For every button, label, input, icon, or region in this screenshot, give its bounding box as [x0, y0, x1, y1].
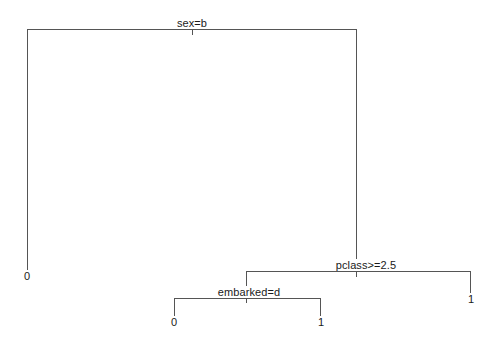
leaf-label-embarked-right: 1	[318, 316, 324, 328]
split-label-pclass: pclass>=2.5	[333, 259, 399, 271]
leaf-label-root-left: 0	[24, 270, 30, 282]
leaf-label-embarked-left: 0	[171, 316, 177, 328]
split-label-sex: sex=b	[174, 17, 210, 29]
decision-tree-diagram: sex=b pclass>=2.5 embarked=d 0 1 0 1	[0, 0, 492, 349]
leaf-label-pclass-right: 1	[468, 293, 474, 305]
split-label-embarked: embarked=d	[215, 286, 283, 298]
